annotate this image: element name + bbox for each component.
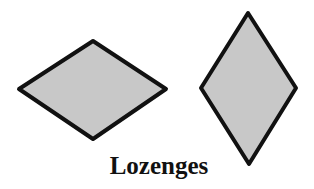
horizontal-lozenge bbox=[19, 41, 166, 139]
vertical-lozenge bbox=[201, 13, 296, 164]
figure-caption: Lozenges bbox=[0, 152, 314, 180]
